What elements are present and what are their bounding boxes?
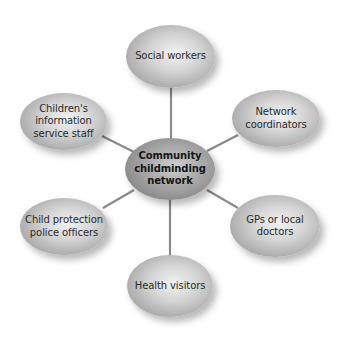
connector-lower-right xyxy=(207,190,238,208)
node-label: Child protection police officers xyxy=(23,214,105,239)
node-label: Health visitors xyxy=(133,280,208,293)
connector-upper-right xyxy=(207,135,238,151)
connector-lower-left xyxy=(103,190,134,208)
node-label: Network coordinators xyxy=(243,106,308,131)
node-label: Social workers xyxy=(133,50,208,63)
node-social-workers: Social workers xyxy=(126,25,215,88)
node-label: Children's information service staff xyxy=(32,103,96,141)
node-label: GPs or local doctors xyxy=(244,214,306,239)
node-network-coordinators: Network coordinators xyxy=(232,90,320,147)
node-gps-or-local-doctors: GPs or local doctors xyxy=(230,195,320,257)
center-label: Community childminding network xyxy=(132,150,208,188)
node-community-childminding-network: Community childminding network xyxy=(125,138,215,200)
connector-upper-left xyxy=(102,136,134,152)
community-childminding-network-diagram: Social workers Children's information se… xyxy=(0,0,340,337)
node-child-protection-police-officers: Child protection police officers xyxy=(20,198,108,255)
node-health-visitors: Health visitors xyxy=(127,255,213,317)
node-childrens-information-service-staff: Children's information service staff xyxy=(20,93,107,150)
